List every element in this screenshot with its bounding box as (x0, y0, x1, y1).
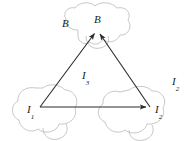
figure-canvas: B B I1 I2 I3 I1 I2 (0, 0, 196, 141)
label-current-center-sub: 3 (86, 79, 90, 87)
label-field-apex: B (94, 10, 101, 29)
cloud-left (12, 85, 76, 140)
label-field-outer-base: B (62, 17, 69, 29)
label-current-right-outer: I2 (172, 72, 179, 91)
label-current-right-vertex: I2 (155, 100, 162, 119)
label-field-outer: B (62, 14, 69, 33)
label-field-apex-base: B (94, 13, 101, 25)
label-current-left-vertex: I1 (27, 100, 34, 119)
arrow-right-to-apex (100, 34, 150, 107)
label-current-right-outer-sub: 2 (176, 85, 180, 93)
label-current-right-vertex-sub: 2 (159, 113, 163, 121)
label-current-left-vertex-sub: 1 (31, 113, 35, 121)
label-current-center: I3 (82, 66, 89, 85)
